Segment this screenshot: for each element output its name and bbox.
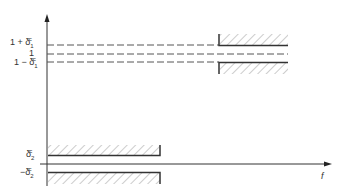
y-axis (45, 14, 50, 186)
filter-spec-diagram (0, 0, 346, 195)
label-upper-passband: 1 + δ1c (10, 38, 37, 47)
x-axis-arrow-icon (324, 162, 332, 167)
label-stopband-positive: δ2c (26, 150, 37, 159)
y-axis-arrow-icon (45, 14, 50, 22)
label-lower-passband: 1 − δ1c (14, 58, 41, 67)
label-stopband-negative: −δ2c (20, 168, 37, 177)
reference-lines (47, 45, 288, 62)
x-axis-label: f (321, 172, 324, 181)
x-axis (40, 162, 332, 167)
